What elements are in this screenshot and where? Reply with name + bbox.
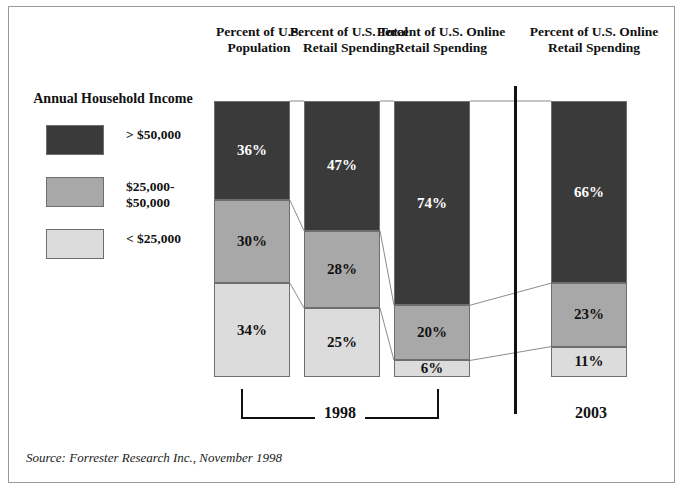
segment-value-label: 23% bbox=[574, 307, 604, 322]
segment-online-retail-spending-2003-0[interactable]: 66% bbox=[551, 101, 627, 283]
segment-value-label: 30% bbox=[237, 234, 267, 249]
segment-us-population-1[interactable]: 30% bbox=[214, 200, 290, 283]
column-header-online-retail-spending-2003: Percent of U.S. Online Retail Spending bbox=[524, 24, 664, 56]
segment-value-label: 11% bbox=[574, 354, 603, 369]
bar-online-retail-spending-1998[interactable]: 74%20%6% bbox=[394, 101, 470, 377]
segment-value-label: 25% bbox=[327, 335, 357, 350]
group-divider bbox=[514, 86, 517, 414]
legend-item-low-income: < $25,000 bbox=[30, 229, 210, 281]
bar-us-population[interactable]: 36%30%34% bbox=[214, 101, 290, 377]
bracket-left-tick bbox=[241, 389, 243, 419]
bracket-bottom-right bbox=[365, 417, 439, 419]
segment-total-retail-spending-1[interactable]: 28% bbox=[304, 231, 380, 308]
legend-label-mid-income: $25,000- $50,000 bbox=[126, 179, 174, 211]
segment-us-population-2[interactable]: 34% bbox=[214, 283, 290, 377]
bracket-right-tick bbox=[437, 389, 439, 419]
segment-value-label: 28% bbox=[327, 262, 357, 277]
segment-value-label: 74% bbox=[417, 196, 447, 211]
segment-total-retail-spending-0[interactable]: 47% bbox=[304, 101, 380, 231]
legend: Annual Household Income > $50,000 $25,00… bbox=[30, 90, 210, 281]
legend-item-mid-income: $25,000- $50,000 bbox=[30, 177, 210, 229]
segment-online-retail-spending-1998-2[interactable]: 6% bbox=[394, 360, 470, 377]
segment-us-population-0[interactable]: 36% bbox=[214, 101, 290, 200]
bracket-bottom-left bbox=[241, 417, 315, 419]
year-label-1998: 1998 bbox=[310, 404, 370, 422]
legend-label-low-income: < $25,000 bbox=[126, 231, 181, 247]
segment-value-label: 66% bbox=[574, 185, 604, 200]
segment-online-retail-spending-2003-2[interactable]: 11% bbox=[551, 347, 627, 377]
segment-online-retail-spending-1998-1[interactable]: 20% bbox=[394, 305, 470, 360]
legend-label-high-income: > $50,000 bbox=[126, 127, 181, 143]
legend-swatch-high-income bbox=[46, 125, 104, 155]
legend-swatch-low-income bbox=[46, 229, 104, 259]
column-header-online-retail-spending-1998: Percent of U.S. Online Retail Spending bbox=[376, 24, 506, 56]
segment-value-label: 36% bbox=[237, 143, 267, 158]
year-label-2003: 2003 bbox=[551, 404, 631, 422]
bar-total-retail-spending[interactable]: 47%28%25% bbox=[304, 101, 380, 377]
legend-swatch-mid-income bbox=[46, 177, 104, 207]
segment-online-retail-spending-2003-1[interactable]: 23% bbox=[551, 283, 627, 346]
segment-total-retail-spending-2[interactable]: 25% bbox=[304, 308, 380, 377]
legend-item-high-income: > $50,000 bbox=[30, 125, 210, 177]
segment-value-label: 20% bbox=[417, 325, 447, 340]
bar-online-retail-spending-2003[interactable]: 66%23%11% bbox=[551, 101, 627, 377]
legend-title: Annual Household Income bbox=[30, 90, 196, 107]
source-note: Source: Forrester Research Inc., Novembe… bbox=[26, 450, 282, 466]
segment-value-label: 6% bbox=[421, 361, 444, 376]
segment-value-label: 47% bbox=[327, 158, 357, 173]
segment-value-label: 34% bbox=[237, 323, 267, 338]
segment-online-retail-spending-1998-0[interactable]: 74% bbox=[394, 101, 470, 305]
